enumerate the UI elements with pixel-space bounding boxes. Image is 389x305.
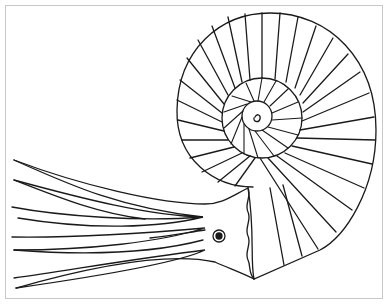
- shell-whorl-inner: [242, 101, 272, 131]
- shell-whorl-middle: [222, 78, 302, 158]
- nautilus-drawing: [0, 0, 389, 305]
- shell-center: [254, 115, 260, 122]
- tentacles: [12, 160, 205, 288]
- head-bottom: [16, 258, 254, 288]
- eye-pupil: [216, 233, 222, 239]
